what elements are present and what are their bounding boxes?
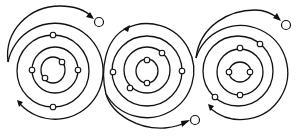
- electron: [75, 67, 81, 73]
- electron: [144, 80, 150, 86]
- free-electron: [95, 18, 104, 27]
- electron: [59, 59, 65, 65]
- electron: [179, 68, 185, 74]
- electron: [110, 69, 116, 75]
- electron: [42, 75, 48, 81]
- arrow-icon: [273, 13, 281, 21]
- atom-middle: [104, 24, 200, 129]
- arrow-icon: [181, 120, 190, 127]
- orbit-ring-2: [32, 47, 78, 93]
- arrow-icon: [123, 25, 130, 32]
- electron: [29, 67, 35, 73]
- electron: [50, 32, 56, 38]
- electron: [50, 104, 56, 110]
- electron: [159, 50, 165, 56]
- electron: [226, 69, 232, 75]
- electron: [212, 94, 218, 100]
- electron: [247, 69, 253, 75]
- free-electron: [282, 21, 291, 30]
- atomic-orbits-diagram: [0, 0, 300, 138]
- electron: [237, 92, 243, 98]
- escape-path: [106, 94, 188, 128]
- escape-path: [8, 6, 92, 62]
- electron: [257, 41, 263, 47]
- electron: [144, 57, 150, 63]
- free-electron: [191, 116, 200, 125]
- orbit-ring-2: [217, 49, 263, 95]
- electron: [127, 85, 133, 91]
- electron: [237, 45, 243, 51]
- atom-left: [8, 6, 104, 119]
- atom-right: [196, 10, 291, 120]
